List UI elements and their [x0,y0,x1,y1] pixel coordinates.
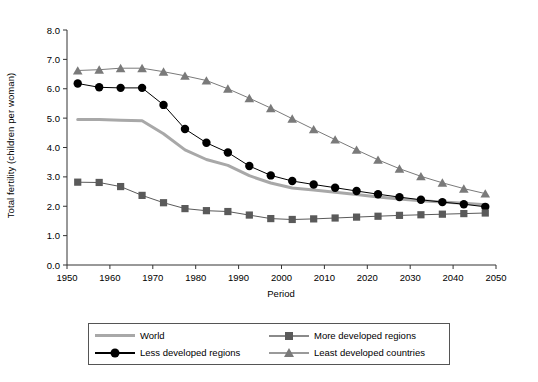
x-tick-label: 2000 [271,272,292,283]
marker-triangle [202,76,212,84]
marker-square [117,183,124,190]
marker-square [374,213,381,220]
marker-square [203,207,210,214]
y-tick-label: 1.0 [47,230,60,241]
legend-item-world[interactable]: World [95,327,269,344]
marker-square [460,210,467,217]
x-axis-title: Period [267,288,294,299]
x-tick-label: 1980 [185,272,206,283]
marker-circle [116,84,124,92]
x-tick-label: 2050 [485,272,506,283]
x-tick-label: 1970 [142,272,163,283]
legend-label-least-developed-countries: Least developed countries [314,347,425,358]
x-tick-label: 1960 [99,272,120,283]
legend-key-least-developed-triangle [269,347,309,359]
legend-item-least-developed-countries[interactable]: Least developed countries [269,344,443,361]
marker-square [160,199,167,206]
chart-figure: Total fertility (children per woman) 0.0… [0,0,538,382]
marker-triangle [395,164,405,172]
x-tick-label: 2030 [400,272,421,283]
marker-circle [374,190,382,198]
marker-circle [438,198,446,206]
marker-circle [181,125,189,133]
marker-square [439,211,446,218]
marker-square [246,211,253,218]
marker-circle [95,83,103,91]
marker-triangle [352,145,362,153]
marker-triangle [266,104,276,112]
legend-key-world-line [95,330,135,342]
marker-square [267,215,274,222]
y-tick-label: 8.0 [47,25,60,36]
y-tick-label: 4.0 [47,142,60,153]
marker-triangle [416,172,426,180]
y-tick-label: 3.0 [47,171,60,182]
y-tick-label: 0.0 [47,260,60,271]
marker-triangle [459,184,469,192]
marker-circle [352,187,360,195]
y-tick-label: 6.0 [47,83,60,94]
marker-square [482,209,489,216]
legend-label-world: World [140,330,165,341]
marker-circle [138,84,146,92]
marker-circle [159,101,167,109]
y-tick-label: 2.0 [47,201,60,212]
marker-square [289,216,296,223]
y-axis-ticks: 0.01.02.03.04.05.06.07.08.0 [47,25,67,271]
y-tick-label: 5.0 [47,113,60,124]
marker-square [396,212,403,219]
x-tick-label: 2010 [314,272,335,283]
marker-circle [395,193,403,201]
marker-triangle [245,94,255,102]
chart-legend: World More developed regions Less develo… [88,323,450,365]
marker-circle [245,162,253,170]
marker-circle [224,148,232,156]
marker-square [310,215,317,222]
marker-square [74,179,81,186]
y-tick-label: 7.0 [47,54,60,65]
marker-circle [202,139,210,147]
legend-item-more-developed-regions[interactable]: More developed regions [269,327,443,344]
legend-label-less-developed-regions: Less developed regions [140,347,240,358]
marker-triangle [309,125,319,133]
marker-triangle [287,114,297,122]
marker-circle [331,184,339,192]
marker-triangle [480,189,490,197]
marker-square [181,205,188,212]
marker-triangle [438,178,448,186]
marker-circle [417,196,425,204]
legend-key-more-developed-square [269,330,309,342]
data-series-layer [73,64,490,223]
marker-circle [267,171,275,179]
legend-item-less-developed-regions[interactable]: Less developed regions [95,344,269,361]
legend-label-more-developed-regions: More developed regions [314,330,416,341]
x-tick-label: 1950 [56,272,77,283]
marker-circle [74,79,82,87]
legend-key-less-developed-circle [95,347,135,359]
marker-circle [288,177,296,185]
series-line-1 [78,84,486,207]
marker-circle [309,180,317,188]
marker-square [353,214,360,221]
marker-square [138,192,145,199]
marker-circle [460,200,468,208]
marker-triangle [373,155,383,163]
marker-triangle [330,135,340,143]
x-tick-label: 2040 [443,272,464,283]
marker-square [417,211,424,218]
marker-square [332,214,339,221]
x-axis-ticks: 1950196019701980199020002010202020302040… [56,265,506,283]
marker-square [96,179,103,186]
marker-triangle [223,84,233,92]
x-tick-label: 2020 [357,272,378,283]
x-tick-label: 1990 [228,272,249,283]
marker-square [224,208,231,215]
